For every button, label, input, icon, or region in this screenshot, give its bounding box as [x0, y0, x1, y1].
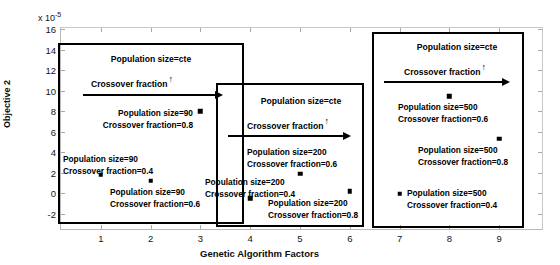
x-tick-label-2: 2 [148, 233, 153, 244]
plot-area: 16 14 12 10 8 6 4 2 0 -2 1 2 [60, 27, 543, 230]
group1-crossover-text: Crossover fraction [91, 79, 167, 89]
up-arrow-icon: ↑ [481, 62, 486, 72]
x-tick-label-5: 5 [297, 233, 302, 244]
annotation-point-3-line2: Crossover fraction=0.8 [87, 119, 193, 131]
data-point-8 [447, 94, 452, 99]
annotation-point-5-line1: Population size=200 [247, 146, 337, 158]
annotation-point-2-line1: Population size=90 [110, 186, 200, 198]
figure-scatter-genetic-algorithm-factors: x 10-5 Objective 2 Genetic Algorithm Fac… [0, 0, 560, 265]
y-axis-exponent-mult: x 10 [38, 13, 55, 23]
y-tick-label-16: 16 [45, 24, 56, 35]
y-tick-label-6: 6 [51, 126, 56, 137]
annotation-point-9: Population size=500 Crossover fraction=0… [418, 144, 508, 168]
data-point-5 [298, 171, 303, 176]
group3-trend-arrow-line [384, 81, 504, 83]
x-tick-3-top [200, 28, 201, 32]
x-axis-title: Genetic Algorithm Factors [200, 248, 319, 259]
group2-trend-arrow-head [343, 132, 351, 140]
group1-header-population-size: Population size=cte [111, 54, 191, 64]
x-tick-6-top [350, 28, 351, 32]
y-tick-label-0: 0 [51, 188, 56, 199]
data-point-9 [497, 136, 502, 141]
annotation-point-2-line2: Crossover fraction=0.6 [110, 198, 200, 210]
x-tick-label-3: 3 [198, 233, 203, 244]
group3-header-crossover-fraction: Crossover fraction↑ [404, 63, 485, 77]
x-tick-label-1: 1 [98, 233, 103, 244]
y-tick-2-right [538, 173, 542, 174]
x-tick-2-top [151, 28, 152, 32]
annotation-point-3: Population size=90 Crossover fraction=0.… [87, 107, 193, 131]
y-tick-label-4: 4 [51, 147, 56, 158]
x-tick-1-top [101, 28, 102, 32]
y-tick-label-12: 12 [45, 65, 56, 76]
y-tick-6-right [538, 132, 542, 133]
x-tick-1 [101, 225, 102, 229]
y-tick-4-right [538, 152, 542, 153]
annotation-point-9-line2: Crossover fraction=0.8 [418, 156, 508, 168]
data-point-2 [148, 178, 153, 183]
y-axis-title: Objective 2 [2, 80, 12, 128]
annotation-point-4-line1: Population size=200 [205, 176, 295, 188]
y-tick-minus2-right [538, 214, 542, 215]
group2-crossover-text: Crossover fraction [247, 121, 323, 131]
data-point-3 [198, 109, 203, 114]
x-tick-4-top [250, 28, 251, 32]
group1-trend-arrow-line [83, 94, 217, 96]
data-point-1 [99, 172, 104, 177]
y-tick-label-10: 10 [45, 85, 56, 96]
y-tick-0-right [538, 193, 542, 194]
annotation-point-1: Population size=90 Crossover fraction=0.… [63, 153, 153, 177]
y-tick-10-right [538, 91, 542, 92]
x-tick-label-9: 9 [497, 233, 502, 244]
group2-header-population-size: Population size=cte [261, 96, 341, 106]
annotation-point-1-line2: Crossover fraction=0.4 [63, 165, 153, 177]
y-tick-8-right [538, 111, 542, 112]
y-tick-label-2: 2 [51, 167, 56, 178]
data-point-6 [348, 189, 353, 194]
annotation-point-2: Population size=90 Crossover fraction=0.… [110, 186, 200, 210]
data-point-4 [248, 196, 253, 201]
group3-trend-arrow-head [502, 78, 510, 86]
x-tick-label-8: 8 [447, 233, 452, 244]
group2-trend-arrow-line [228, 135, 345, 137]
up-arrow-icon: ↑ [324, 116, 329, 126]
annotation-point-5: Population size=200 Crossover fraction=0… [247, 146, 337, 170]
x-tick-5-top [300, 28, 301, 32]
x-tick-label-6: 6 [347, 233, 352, 244]
x-tick-2 [151, 225, 152, 229]
group3-crossover-text: Crossover fraction [404, 67, 480, 77]
up-arrow-icon: ↑ [168, 74, 173, 84]
x-tick-label-4: 4 [248, 233, 253, 244]
y-axis-exponent-power: -5 [55, 11, 61, 18]
group2-header-crossover-fraction: Crossover fraction↑ [247, 117, 328, 131]
annotation-point-3-line1: Population size=90 [87, 107, 193, 119]
x-tick-3 [200, 225, 201, 229]
y-axis-exponent-label: x 10-5 [38, 11, 61, 23]
annotation-point-6-line2: Crossover fraction=0.8 [268, 209, 358, 221]
y-tick-label-14: 14 [45, 44, 56, 55]
annotation-point-1-line1: Population size=90 [63, 153, 153, 165]
y-tick-16 [61, 29, 65, 30]
annotation-point-8-line1: Population size=500 [398, 101, 488, 113]
annotation-point-9-line1: Population size=500 [418, 144, 508, 156]
annotation-point-6: Population size=200 Crossover fraction=0… [268, 197, 358, 221]
y-tick-12-right [538, 70, 542, 71]
x-tick-label-7: 7 [397, 233, 402, 244]
annotation-point-7-line2: Crossover fraction=0.4 [407, 199, 497, 211]
data-point-7 [397, 191, 402, 196]
annotation-point-8: Population size=500 Crossover fraction=0… [398, 101, 488, 125]
y-tick-label-8: 8 [51, 106, 56, 117]
y-tick-label-minus2: -2 [48, 208, 56, 219]
annotation-point-7: Population size=500 Crossover fraction=0… [407, 187, 497, 211]
annotation-point-6-line1: Population size=200 [268, 197, 358, 209]
y-tick-16-right [538, 29, 542, 30]
annotation-point-7-line1: Population size=500 [407, 187, 497, 199]
y-tick-14-right [538, 50, 542, 51]
group3-header-population-size: Population size=cte [417, 42, 497, 52]
annotation-point-8-line2: Crossover fraction=0.6 [398, 113, 488, 125]
group1-header-crossover-fraction: Crossover fraction↑ [91, 75, 172, 89]
annotation-point-5-line2: Crossover fraction=0.6 [247, 158, 337, 170]
